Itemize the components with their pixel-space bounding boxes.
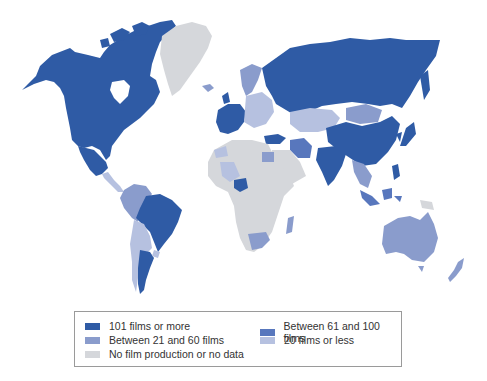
region-eastern-europe (244, 92, 274, 128)
region-tasmania (418, 266, 424, 272)
swatch-101-plus (85, 323, 100, 330)
region-australia (382, 212, 438, 262)
legend-label: Between 21 and 60 films (109, 334, 224, 346)
region-argentina (138, 250, 154, 294)
legend-item-101-plus: 101 films or more (85, 320, 190, 332)
region-turkey (264, 134, 286, 144)
legend-item-21-60: Between 21 and 60 films (85, 334, 224, 346)
region-papua-new-guinea (420, 200, 434, 210)
swatch-20-less (260, 337, 275, 344)
region-uk (222, 92, 230, 104)
region-iceland (202, 84, 214, 92)
swatch-21-60 (85, 337, 100, 344)
region-russia (262, 38, 440, 116)
region-scandinavia (240, 64, 262, 96)
legend-label: 101 films or more (109, 320, 190, 332)
legend-item-20-less: 20 films or less (260, 334, 354, 346)
world-map (0, 0, 487, 300)
region-new-zealand (448, 258, 464, 282)
region-mongolia (346, 104, 382, 124)
map-legend: 101 films or more Between 21 and 60 film… (74, 311, 402, 367)
region-central-america (102, 172, 124, 192)
region-indonesia (360, 188, 402, 206)
region-egypt (262, 152, 274, 162)
region-india (316, 146, 346, 186)
swatch-no-data (85, 351, 100, 358)
region-north-america (22, 20, 176, 160)
region-western-europe (216, 104, 246, 134)
region-uruguay (152, 250, 160, 258)
region-madagascar (286, 216, 294, 234)
region-philippines (392, 164, 400, 180)
legend-label: 20 films or less (284, 334, 354, 346)
region-greenland (160, 22, 212, 96)
legend-item-no-data: No film production or no data (85, 348, 244, 360)
legend-label: No film production or no data (109, 348, 244, 360)
